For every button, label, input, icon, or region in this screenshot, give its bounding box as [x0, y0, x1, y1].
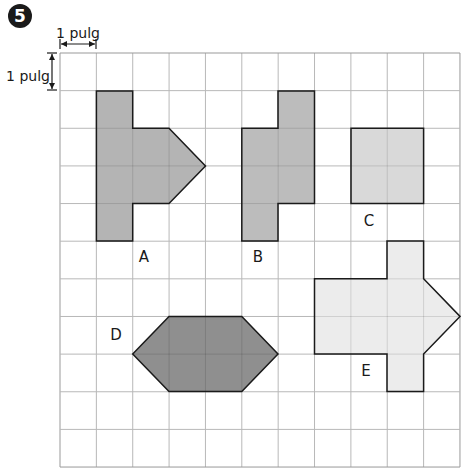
exercise-number-badge: 5 [8, 4, 32, 28]
shape-label-e: E [361, 362, 370, 380]
exercise-number: 5 [14, 6, 26, 26]
shape-label-a: A [139, 248, 150, 266]
horizontal-scale: 1 pulg [56, 25, 100, 49]
arrow-right-icon [89, 41, 95, 47]
arrow-down-icon [49, 83, 55, 89]
vertical-scale-label: 1 pulg [6, 68, 50, 84]
shape-label-b: B [253, 248, 263, 266]
shapes-layer: ABCDE [60, 53, 460, 467]
grid-diagram: ABCDE 5 1 pulg 1 pulg [0, 0, 461, 472]
arrow-up-icon [49, 54, 55, 60]
shape-label-c: C [364, 212, 374, 230]
shape-label-d: D [110, 326, 122, 344]
horizontal-scale-label: 1 pulg [56, 25, 100, 41]
arrow-left-icon [61, 41, 67, 47]
vertical-scale: 1 pulg [6, 53, 57, 90]
